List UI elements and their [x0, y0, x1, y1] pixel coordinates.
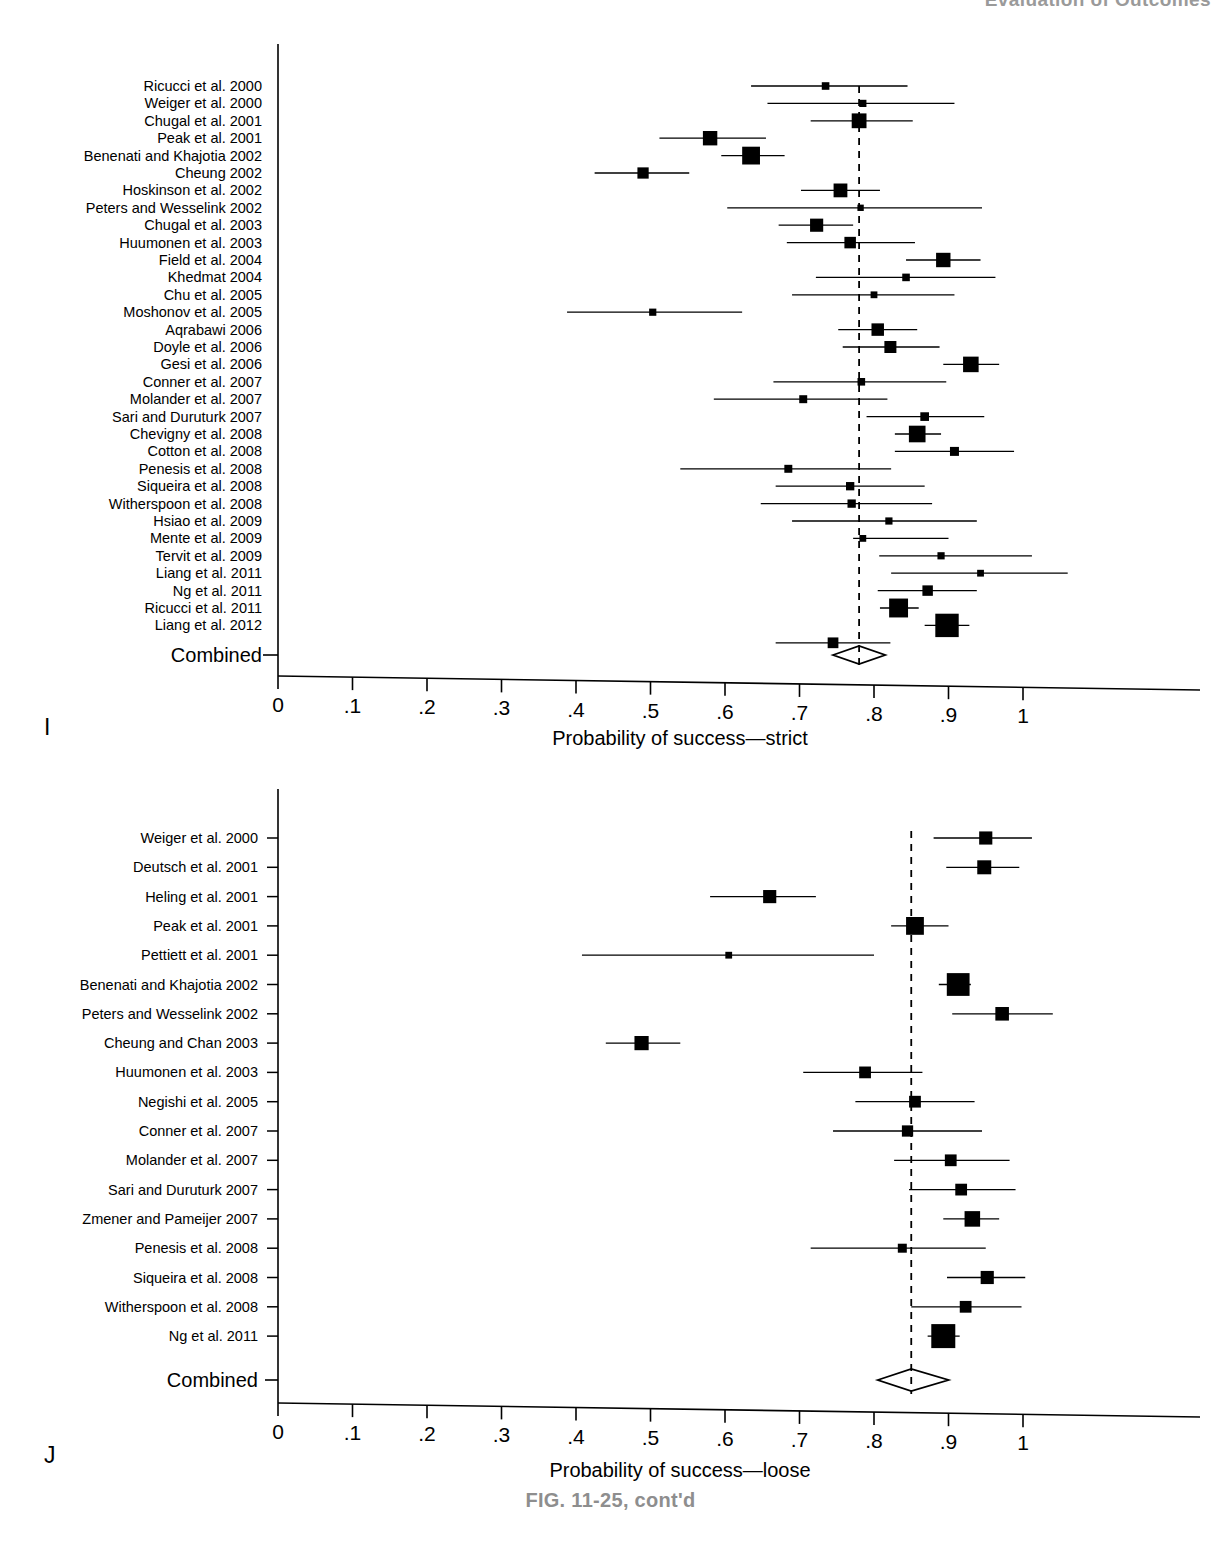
point-estimate-marker — [906, 917, 924, 935]
x-axis-tick-label: 1 — [1017, 1431, 1029, 1454]
study-label: Negishi et al. 2005 — [138, 1094, 258, 1110]
point-estimate-marker — [852, 113, 867, 128]
forest-row — [595, 167, 690, 178]
x-axis-tick-label: 0 — [272, 693, 284, 716]
study-label: Cotton et al. 2008 — [148, 443, 262, 459]
study-label: Tervit et al. 2009 — [156, 548, 262, 564]
point-estimate-marker — [945, 1154, 957, 1166]
study-label: Moshonov et al. 2005 — [123, 304, 262, 320]
figure-caption: FIG. 11-25, cont'd — [0, 1489, 1221, 1512]
forest-row — [779, 219, 854, 232]
forest-row — [816, 274, 996, 282]
x-axis-tick-label: 0 — [272, 1420, 284, 1443]
point-estimate-marker — [634, 1036, 648, 1050]
study-label: Witherspoon et al. 2008 — [105, 1299, 258, 1315]
point-estimate-marker — [885, 517, 892, 524]
forest-row — [267, 860, 1019, 874]
forest-row — [267, 1244, 986, 1253]
point-estimate-marker — [859, 1067, 871, 1079]
x-axis-tick-label: .8 — [865, 1429, 883, 1452]
study-label: Chugal et al. 2001 — [144, 113, 262, 129]
point-estimate-marker — [847, 499, 855, 507]
study-label: Zmener and Pameijer 2007 — [82, 1211, 258, 1227]
point-estimate-marker — [902, 1125, 913, 1136]
point-estimate-marker — [859, 535, 866, 542]
study-label: Conner et al. 2007 — [143, 374, 262, 390]
forest-row — [811, 113, 913, 128]
study-label: Cheung 2002 — [175, 165, 262, 181]
point-estimate-marker — [963, 357, 979, 373]
x-axis-tick-label: .9 — [940, 703, 958, 726]
point-estimate-marker — [857, 205, 863, 211]
point-estimate-marker — [871, 291, 878, 298]
forest-row — [895, 426, 941, 443]
point-estimate-marker — [979, 831, 992, 844]
x-axis-tick-label: .8 — [865, 702, 883, 725]
point-estimate-marker — [947, 973, 970, 996]
point-estimate-marker — [909, 1096, 921, 1108]
study-label: Huumonen et al. 2003 — [119, 235, 262, 251]
point-estimate-marker — [936, 253, 950, 267]
point-estimate-marker — [859, 100, 866, 107]
x-axis-title: Probability of success—loose — [549, 1459, 810, 1481]
forest-row — [267, 917, 949, 935]
point-estimate-marker — [846, 482, 854, 490]
x-axis-line — [278, 676, 1200, 690]
point-estimate-marker — [950, 447, 959, 456]
study-label: Deutsch et al. 2001 — [133, 859, 258, 875]
forest-row — [267, 831, 1032, 844]
study-label: Peak et al. 2001 — [153, 918, 258, 934]
point-estimate-marker — [844, 237, 856, 249]
forest-row — [267, 1067, 922, 1079]
study-label: Field et al. 2004 — [159, 252, 262, 268]
point-estimate-marker — [981, 1271, 994, 1284]
study-label: Benenati and Khajotia 2002 — [84, 148, 262, 164]
study-label: Aqrabawi 2006 — [165, 322, 262, 338]
point-estimate-marker — [828, 637, 839, 648]
point-estimate-marker — [649, 309, 656, 316]
forest-row — [838, 323, 917, 335]
forest-row — [773, 378, 946, 386]
study-label: Chevigny et al. 2008 — [130, 426, 262, 442]
x-axis-tick-label: .4 — [567, 698, 585, 721]
study-label: Khedmat 2004 — [168, 269, 262, 285]
forest-row — [267, 1301, 1022, 1313]
study-label: Ng et al. 2011 — [169, 1328, 258, 1344]
point-estimate-marker — [995, 1007, 1009, 1021]
point-estimate-marker — [799, 395, 807, 403]
study-label: Siqueira et al. 2008 — [133, 1270, 258, 1286]
forest-row — [567, 309, 742, 316]
study-label: Huumonen et al. 2003 — [115, 1064, 258, 1080]
point-estimate-marker — [977, 860, 991, 874]
forest-row — [895, 447, 1014, 456]
forest-row — [767, 100, 954, 107]
forest-row — [879, 552, 1032, 559]
panel-letter-i: I — [44, 714, 50, 741]
x-axis-tick-label: .9 — [940, 1430, 958, 1453]
forest-row — [792, 517, 977, 524]
forest-row — [267, 973, 971, 996]
x-axis-tick-label: .3 — [493, 1423, 511, 1446]
forest-row — [878, 585, 977, 595]
forest-row — [267, 1007, 1053, 1021]
x-axis-line — [278, 1403, 1200, 1417]
x-axis-tick-label: .4 — [567, 1425, 585, 1448]
point-estimate-marker — [763, 890, 776, 903]
panel-letter-j: J — [44, 1442, 56, 1469]
study-label: Sari and Duruturk 2007 — [108, 1182, 258, 1198]
forest-plot-panel-loose: 0.1.2.3.4.5.6.7.8.91Probability of succe… — [0, 775, 1221, 1520]
x-axis-tick-label: .5 — [642, 1426, 660, 1449]
point-estimate-marker — [725, 952, 732, 959]
study-label: Liang et al. 2011 — [156, 565, 262, 581]
study-label: Hsiao et al. 2009 — [153, 513, 262, 529]
point-estimate-marker — [889, 599, 908, 618]
study-label: Witherspoon et al. 2008 — [109, 496, 262, 512]
study-label: Weiger et al. 2000 — [141, 830, 258, 846]
x-axis-tick-label: .3 — [493, 696, 511, 719]
forest-row — [267, 1096, 975, 1108]
forest-row — [714, 395, 888, 403]
forest-row — [787, 237, 915, 249]
study-label: Benenati and Khajotia 2002 — [80, 977, 258, 993]
study-label: Weiger et al. 2000 — [145, 95, 262, 111]
point-estimate-marker — [955, 1184, 967, 1196]
